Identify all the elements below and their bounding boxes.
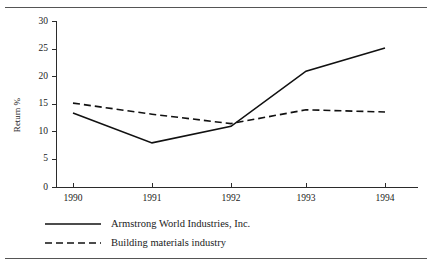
legend-label: Building materials industry: [111, 237, 226, 248]
legend-item: Armstrong World Industries, Inc.: [45, 214, 375, 233]
legend-swatch-dashed-icon: [45, 238, 101, 248]
x-axis: [57, 183, 419, 188]
legend-item: Building materials industry: [45, 233, 375, 252]
legend-swatch-solid-icon: [45, 219, 101, 229]
y-axis-title-text: Return %: [12, 97, 22, 132]
y-tick-label: 10: [39, 126, 49, 136]
y-tick-label: 20: [39, 71, 49, 81]
x-axis-tick-labels: 1990 1991 1992 1993 1994: [64, 193, 395, 203]
y-tick-label: 15: [39, 98, 49, 108]
y-tick-label: 5: [43, 153, 48, 163]
y-axis: [52, 21, 57, 188]
y-tick-label: 30: [39, 16, 49, 26]
x-tick-label: 1993: [297, 193, 316, 203]
line-chart-svg: Return % 30 25 20 15 10 5 0: [0, 10, 431, 205]
figure-container: Return % 30 25 20 15 10 5 0: [0, 0, 431, 266]
chart-legend: Armstrong World Industries, Inc. Buildin…: [45, 214, 375, 252]
x-tick-label: 1994: [376, 193, 395, 203]
series-line-building-materials-industry: [73, 103, 385, 124]
x-tick-label: 1992: [222, 193, 241, 203]
plot-area: Return % 30 25 20 15 10 5 0: [0, 10, 431, 205]
y-tick-label: 25: [39, 43, 49, 53]
x-tick-label: 1990: [64, 193, 83, 203]
top-divider-rule: [5, 7, 427, 8]
y-axis-title: Return %: [12, 97, 22, 132]
legend-label: Armstrong World Industries, Inc.: [111, 218, 250, 229]
bottom-divider-rule: [5, 258, 427, 259]
y-tick-label: 0: [43, 182, 48, 192]
y-axis-tick-labels: 30 25 20 15 10 5 0: [39, 16, 49, 192]
x-tick-label: 1991: [143, 193, 162, 203]
series-line-armstrong-world-industries: [73, 48, 385, 143]
